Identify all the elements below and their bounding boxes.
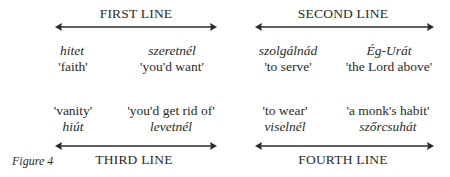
third-line-word-1: hiút (62, 119, 83, 135)
third-line-gloss-1: 'vanity' (54, 103, 93, 119)
second-line-title: SECOND LINE (298, 6, 388, 22)
second-line-gloss-2: 'the Lord above' (346, 59, 433, 75)
third-line-word-2: levetnél (150, 119, 192, 135)
first-line-title: FIRST LINE (100, 6, 173, 22)
first-line-word-1: hitet (60, 43, 84, 59)
first-line-word-2: szeretnél (148, 43, 196, 59)
third-line-gloss-2: 'you'd get rid of' (127, 103, 214, 119)
first-line-double-arrow-icon (55, 22, 217, 32)
third-line-double-arrow-icon (55, 141, 217, 151)
fourth-line-word-2: szőrcsuhát (359, 119, 416, 135)
fourth-line-word-1: viselnél (264, 119, 305, 135)
second-line-word-2: Ég-Urát (367, 43, 412, 59)
second-line-gloss-1: 'to serve' (264, 59, 311, 75)
third-line-title: THIRD LINE (95, 152, 172, 168)
fourth-line-double-arrow-icon (255, 141, 434, 151)
fourth-line-gloss-2: 'a monk's habit' (346, 103, 429, 119)
fourth-line-gloss-1: 'to wear' (263, 103, 308, 119)
first-line-gloss-2: 'you'd want' (140, 59, 204, 75)
figure-caption: Figure 4 (12, 154, 53, 169)
second-line-double-arrow-icon (255, 22, 434, 32)
first-line-gloss-1: 'faith' (58, 59, 88, 75)
fourth-line-title: FOURTH LINE (298, 152, 388, 168)
second-line-word-1: szolgálnád (259, 43, 318, 59)
